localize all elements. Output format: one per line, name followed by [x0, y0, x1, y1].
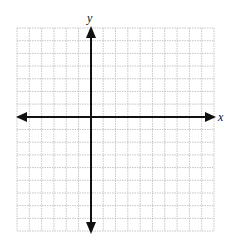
y-axis: [86, 26, 96, 234]
x-axis: [16, 112, 216, 122]
grid-lines: [17, 28, 214, 231]
coordinate-plane: x y: [0, 0, 233, 243]
x-axis-label: x: [217, 110, 224, 124]
y-axis-bottom-arrow-icon: [86, 222, 96, 234]
y-axis-label: y: [86, 11, 93, 25]
x-axis-left-arrow-icon: [16, 112, 27, 122]
